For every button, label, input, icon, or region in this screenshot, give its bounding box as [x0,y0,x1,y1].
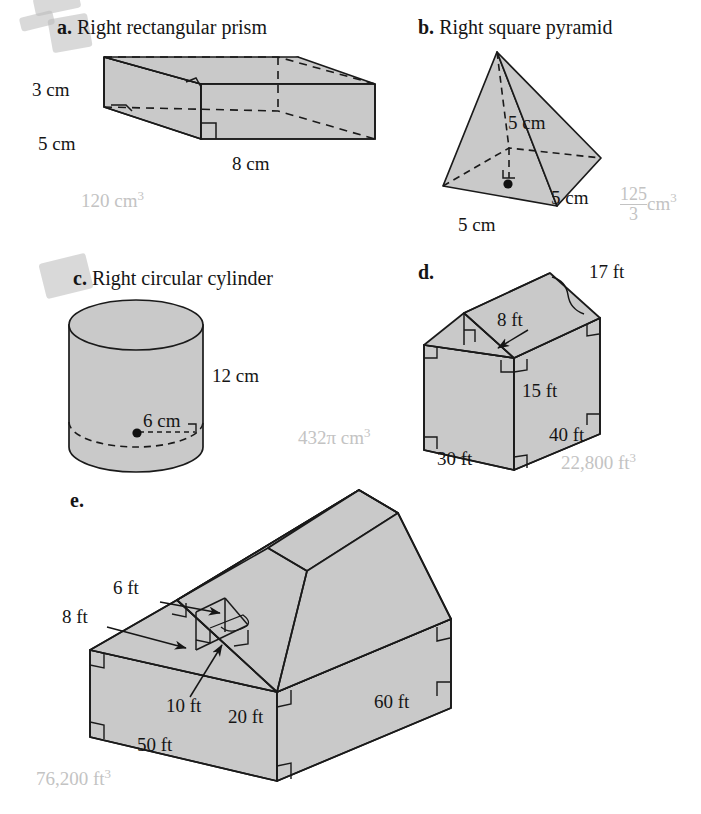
figure-a-dim-width: 5 cm [38,134,75,153]
figure-c-letter: c. [73,267,87,289]
figure-c-answer: 432π cm3 [298,427,371,447]
prism-front-face [201,84,375,139]
figure-e-answer: 76,200 ft3 [36,768,111,788]
figure-a-answer-exponent: 3 [137,188,143,203]
pyramid-center-point [503,179,512,188]
figure-b-title: Right square pyramid [439,16,612,38]
figure-c-dim-height: 12 cm [212,366,259,385]
figure-b-answer-exponent: 3 [670,190,676,205]
figure-e-heading: e. [70,490,84,510]
figure-e-dim-roof-half-width: 10 ft [166,696,201,715]
fraction-denominator: 3 [620,204,647,224]
figure-c-answer-value: 432π cm [298,427,364,448]
figure-d-dim-roof-slant: 17 ft [589,262,624,281]
figure-d-dim-wall-height: 15 ft [522,381,557,400]
figure-b-answer: 125 3 cm3 [620,186,677,225]
cylinder-center-point [132,428,141,437]
figure-b-answer-unit: cm [647,193,670,214]
figure-c-heading: c. Right circular cylinder [73,268,273,288]
figure-b-dim-base-front: 5 cm [458,215,495,234]
figure-c-answer-exponent: 3 [364,425,370,440]
cylinder-top-ellipse [69,300,203,350]
figure-a-title: Right rectangular prism [77,16,267,38]
figure-d-dim-roof-height: 8 ft [497,310,523,329]
figure-a-dim-length: 8 cm [232,154,269,173]
figure-a-heading: a. Right rectangular prism [57,17,267,37]
figure-sheet: a. Right rectangular prism 3 cm 5 cm 8 c… [0,0,701,814]
figure-d-dim-width: 30 ft [437,449,472,468]
figure-d-letter: d. [418,261,434,283]
figure-a-letter: a. [57,16,72,38]
figure-a-dim-height: 3 cm [32,80,69,99]
figure-b-dim-base-right: 5 cm [551,188,588,207]
figure-e-dim-roof-peak: 6 ft [113,578,139,597]
figure-e-dim-depth: 60 ft [374,692,409,711]
figure-b-answer-fraction: 125 3 [620,185,647,224]
figure-a-prism [104,57,375,139]
figure-b-letter: b. [418,16,434,38]
figure-d-answer-value: 22,800 ft [561,452,630,473]
figure-d-dim-depth: 40 ft [549,425,584,444]
figure-a-answer: 120 cm3 [81,190,144,210]
figure-e-dim-wall-height: 20 ft [228,707,263,726]
figure-a-answer-value: 120 cm [81,190,137,211]
figure-d-heading: d. [418,262,434,282]
figure-e-dim-roof-slant: 8 ft [62,607,88,626]
figure-d-answer-exponent: 3 [630,450,636,465]
figure-c-cylinder [69,300,203,472]
fraction-numerator: 125 [620,185,647,204]
figure-d-answer: 22,800 ft3 [561,452,636,472]
figure-e-letter: e. [70,489,84,511]
figure-e-dim-front-width: 50 ft [137,735,172,754]
figure-c-title: Right circular cylinder [92,267,273,289]
geometry-canvas [0,0,701,814]
figure-c-dim-radius: 6 cm [143,411,180,430]
figure-e-answer-value: 76,200 ft [36,768,105,789]
figure-e-answer-exponent: 3 [105,766,111,781]
figure-b-heading: b. Right square pyramid [418,17,612,37]
figure-b-dim-height: 5 cm [508,113,545,132]
